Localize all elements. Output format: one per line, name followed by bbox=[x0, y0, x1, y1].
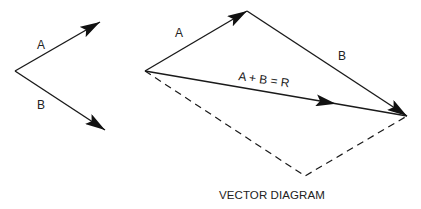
vector-a-right bbox=[145, 11, 247, 71]
diagram-title: VECTOR DIAGRAM bbox=[219, 189, 325, 201]
label-a-right: A bbox=[175, 26, 183, 40]
vector-b-right bbox=[247, 11, 407, 116]
label-resultant: A + B = R bbox=[238, 69, 291, 90]
vector-a-left bbox=[15, 22, 100, 71]
vector-diagram: A B A B A + B = R VECTOR DIAGRAM bbox=[0, 0, 421, 209]
label-b-left: B bbox=[37, 98, 45, 112]
label-a-left: A bbox=[37, 38, 45, 52]
vector-b-left bbox=[15, 71, 105, 130]
label-b-right: B bbox=[338, 49, 346, 63]
left-figure: A B bbox=[15, 22, 105, 130]
right-figure: A B A + B = R bbox=[145, 11, 407, 176]
